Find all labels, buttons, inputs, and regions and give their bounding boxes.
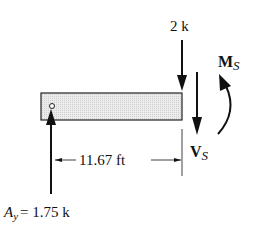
- reaction-arrow-icon: [46, 109, 56, 194]
- shear-arrow-icon: [192, 72, 202, 135]
- moment-arrow-icon: [218, 74, 231, 134]
- reaction-label: Ay= 1.75 k: [3, 204, 70, 222]
- moment-label: MS: [218, 53, 240, 73]
- beam: [41, 93, 182, 120]
- free-body-diagram: 2 k MS VS 11.67 ft Ay= 1.75 k: [0, 0, 266, 238]
- pin-support-icon: [50, 104, 55, 109]
- load-arrow-icon: [177, 40, 187, 91]
- dimension-label: 11.67 ft: [79, 152, 126, 168]
- load-label: 2 k: [170, 18, 189, 34]
- shear-label: VS: [190, 143, 209, 163]
